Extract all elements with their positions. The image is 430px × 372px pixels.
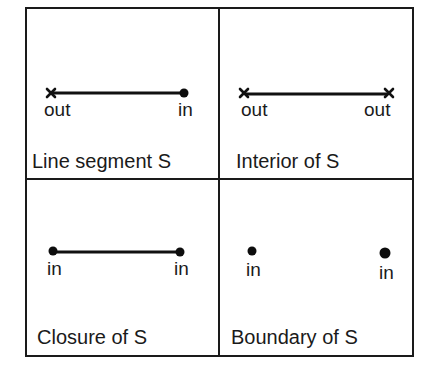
left-endpoint-label: in [246, 259, 261, 280]
dot-icon [49, 247, 58, 256]
dot-icon [176, 248, 185, 257]
panel-interior: out out Interior of S [236, 89, 393, 172]
topology-diagram: out in Line segment S out out Interior o… [0, 0, 430, 372]
dot-icon [380, 248, 391, 259]
left-endpoint-label: in [47, 258, 62, 279]
dot-icon [180, 89, 189, 98]
panel-line-segment: out in Line segment S [32, 89, 193, 173]
panel-grid [26, 8, 413, 356]
panel-caption: Interior of S [236, 150, 339, 172]
panel-closure: in in Closure of S [37, 247, 189, 349]
panel-caption: Line segment S [32, 150, 171, 172]
right-endpoint-label: in [379, 262, 394, 283]
panel-caption: Closure of S [37, 326, 147, 348]
panel-boundary: in in Boundary of S [231, 247, 394, 349]
left-endpoint-label: out [241, 99, 268, 120]
dot-icon [248, 247, 257, 256]
right-endpoint-label: in [174, 258, 189, 279]
left-endpoint-label: out [44, 99, 71, 120]
right-endpoint-label: in [178, 99, 193, 120]
panel-caption: Boundary of S [231, 326, 358, 348]
right-endpoint-label: out [364, 99, 391, 120]
